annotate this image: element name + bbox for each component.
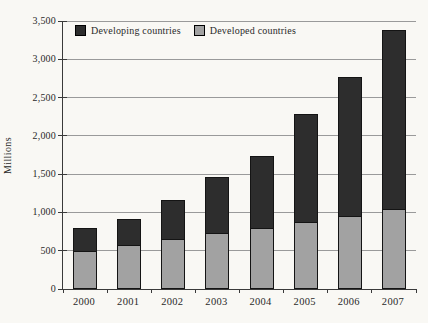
legend-label-developed: Developed countries (210, 25, 296, 36)
y-axis-tick (58, 21, 67, 22)
legend-swatch-developed-icon (194, 25, 205, 36)
y-axis-tick (58, 212, 67, 213)
segment-developing-2007 (383, 31, 405, 210)
legend: Developing countries Developed countries (75, 25, 296, 36)
bar-2003 (205, 177, 229, 289)
bar-2001 (117, 219, 141, 289)
x-axis-tick (371, 289, 372, 293)
y-tick-label: 1,500 (4, 168, 56, 180)
segment-developing-2000 (74, 229, 96, 252)
segment-developing-2003 (206, 178, 228, 234)
y-axis-tick (58, 59, 67, 60)
y-axis-tick (58, 135, 67, 136)
gridline-1500 (63, 174, 416, 175)
legend-swatch-developing-icon (75, 25, 86, 36)
x-axis-tick (239, 289, 240, 293)
x-axis-tick (416, 289, 417, 293)
gridline-1000 (63, 212, 416, 213)
x-axis-tick (151, 289, 152, 293)
bar-2004 (250, 156, 274, 289)
gridline-2000 (63, 135, 416, 136)
legend-label-developing: Developing countries (91, 25, 181, 36)
segment-developing-2006 (339, 78, 361, 217)
x-axis-tick (63, 289, 64, 293)
x-tick-label-2006: 2006 (327, 295, 371, 308)
segment-developing-2001 (118, 220, 140, 247)
y-tick-label: 2,000 (4, 130, 56, 142)
y-tick-label: 0 (4, 283, 56, 295)
segment-developing-2004 (251, 157, 273, 229)
x-axis-tick (107, 289, 108, 293)
y-axis-tick (58, 174, 67, 175)
x-axis-tick (283, 289, 284, 293)
y-tick-label: 1,000 (4, 206, 56, 218)
gridline-2500 (63, 97, 416, 98)
x-axis-tick (327, 289, 328, 293)
y-tick-label: 3,500 (4, 15, 56, 27)
y-tick-label: 500 (4, 245, 56, 257)
bar-2006 (338, 77, 362, 289)
gridline-500 (63, 250, 416, 251)
x-tick-label-2005: 2005 (283, 295, 327, 308)
y-tick-label: 3,000 (4, 53, 56, 65)
bar-2007 (382, 30, 406, 289)
bar-2005 (294, 114, 318, 289)
x-tick-label-2002: 2002 (150, 295, 194, 308)
legend-entry-developing: Developing countries (75, 25, 181, 36)
segment-developing-2002 (162, 201, 184, 240)
stacked-bar-chart-figure: Millions Developing countries Developed … (0, 0, 428, 323)
y-axis-tick (58, 250, 67, 251)
x-tick-label-2001: 2001 (106, 295, 150, 308)
gridline-3500 (63, 21, 416, 22)
x-tick-label-2003: 2003 (194, 295, 238, 308)
legend-entry-developed: Developed countries (194, 25, 296, 36)
x-tick-label-2007: 2007 (371, 295, 415, 308)
bar-2002 (161, 200, 185, 289)
x-tick-label-2000: 2000 (62, 295, 106, 308)
plot-area: Developing countries Developed countries (62, 21, 416, 290)
y-tick-label: 2,500 (4, 92, 56, 104)
segment-developing-2005 (295, 115, 317, 223)
y-axis-tick (58, 97, 67, 98)
x-tick-label-2004: 2004 (239, 295, 283, 308)
gridline-3000 (63, 59, 416, 60)
x-axis-tick (195, 289, 196, 293)
bar-2000 (73, 228, 97, 289)
